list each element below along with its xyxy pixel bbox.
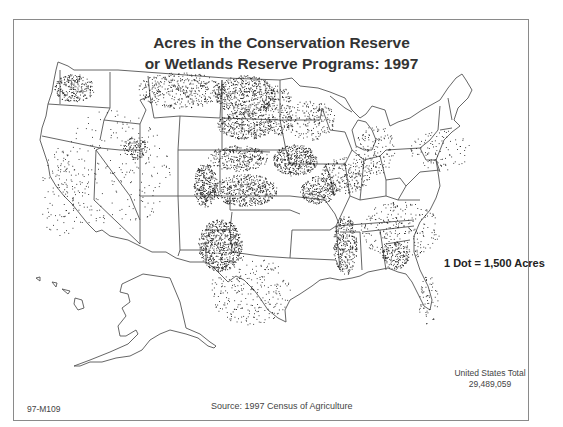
total-label: United States Total (440, 368, 540, 379)
map-title: Acres in the Conservation Reserve or Wet… (0, 32, 563, 74)
alaska-hawaii-inset (36, 274, 216, 366)
us-outline (40, 62, 472, 322)
source-note: Source: 1997 Census of Agriculture (211, 401, 353, 411)
hawaii-outline (36, 277, 84, 310)
us-total: United States Total 29,489,059 (440, 368, 540, 390)
dot-legend: 1 Dot = 1,500 Acres (444, 257, 545, 269)
acreage-dots (42, 73, 469, 326)
title-line-1: Acres in the Conservation Reserve (0, 32, 563, 53)
title-line-2: or Wetlands Reserve Programs: 1997 (0, 53, 563, 74)
alaska-outline (74, 274, 216, 366)
map-code: 97-M109 (27, 404, 61, 414)
total-value: 29,489,059 (440, 379, 540, 390)
state-boundaries (40, 62, 472, 322)
